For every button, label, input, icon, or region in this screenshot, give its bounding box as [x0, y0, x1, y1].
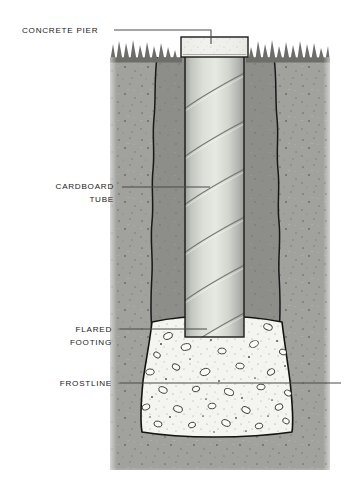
- label-cardboard-tube-line2: TUBE: [89, 195, 114, 204]
- label-flared-footing-line1: FLARED: [76, 325, 112, 334]
- label-flared-footing-line2: FOOTING: [70, 338, 112, 347]
- pier-cap-shade: [181, 37, 248, 57]
- label-concrete-pier: CONCRETE PIER: [22, 26, 98, 35]
- pier-footing-figure: CONCRETE PIER CARDBOARD TUBE FLARED FOOT…: [0, 0, 348, 484]
- label-cardboard-tube-line1: CARDBOARD: [56, 182, 114, 191]
- soil-edge-fade-bottom: [104, 380, 336, 484]
- illustration-canvas: CONCRETE PIER CARDBOARD TUBE FLARED FOOT…: [0, 0, 348, 484]
- label-frostline: FROSTLINE: [60, 379, 112, 388]
- concrete-pier-cap: [181, 37, 248, 57]
- callout-labels: CONCRETE PIER CARDBOARD TUBE FLARED FOOT…: [22, 26, 114, 388]
